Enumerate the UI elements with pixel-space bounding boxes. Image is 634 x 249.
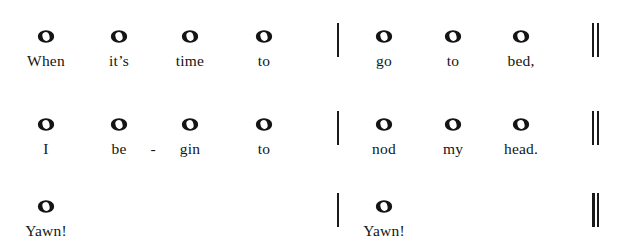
- lyric-syllable: Yawn!: [25, 222, 67, 239]
- barline: [337, 23, 339, 57]
- lyric-syllable: time: [176, 52, 204, 69]
- whole-note-icon: [445, 30, 462, 43]
- whole-note-icon: [513, 118, 530, 131]
- double-barline: [592, 111, 599, 145]
- double-barline: [592, 193, 599, 227]
- whole-note-icon: [38, 200, 55, 213]
- lyric-syllable: my: [443, 140, 463, 157]
- lyric-hyphen: -: [150, 140, 155, 157]
- whole-note-icon: [256, 118, 273, 131]
- lyric-syllable: Yawn!: [363, 222, 405, 239]
- barline: [337, 193, 339, 227]
- lyric-syllable: to: [258, 52, 270, 69]
- whole-note-icon: [513, 30, 530, 43]
- lyric-syllable: go: [376, 52, 392, 69]
- music-system: Yawn!Yawn!: [0, 188, 634, 249]
- music-system: Whenit’stimetogotobed,: [0, 18, 634, 96]
- whole-note-icon: [182, 30, 199, 43]
- whole-note-icon: [38, 118, 55, 131]
- lyric-syllable: bed,: [507, 52, 534, 69]
- whole-note-icon: [256, 30, 273, 43]
- whole-note-icon: [182, 118, 199, 131]
- whole-note-icon: [111, 30, 128, 43]
- whole-note-icon: [376, 30, 393, 43]
- lyric-syllable: I: [43, 140, 48, 157]
- whole-note-icon: [38, 30, 55, 43]
- lyric-syllable: be: [111, 140, 126, 157]
- whole-note-icon: [376, 118, 393, 131]
- whole-note-icon: [376, 200, 393, 213]
- barline: [337, 111, 339, 145]
- whole-note-icon: [111, 118, 128, 131]
- music-sheet: Whenit’stimetogotobed,Ibegintonodmyhead.…: [0, 0, 634, 249]
- music-system: Ibegintonodmyhead.-: [0, 106, 634, 184]
- lyric-syllable: gin: [180, 140, 200, 157]
- lyric-syllable: head.: [504, 140, 538, 157]
- lyric-syllable: to: [447, 52, 459, 69]
- lyric-syllable: to: [258, 140, 270, 157]
- whole-note-icon: [445, 118, 462, 131]
- lyric-syllable: it’s: [109, 52, 129, 69]
- double-barline: [592, 23, 599, 57]
- lyric-syllable: nod: [372, 140, 396, 157]
- lyric-syllable: When: [27, 52, 65, 69]
